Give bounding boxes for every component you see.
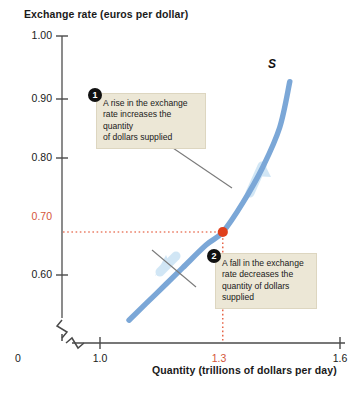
callout-one-line2: rate increases the quantity [103,109,200,132]
y-tick-label-080: 0.80 [10,151,52,163]
callout-two-line1: A fall in the exchange [222,258,311,269]
callout-one: A rise in the exchange rate increases th… [96,93,206,149]
callout-one-line3: of dollars supplied [103,132,200,143]
x-axis-title: Quantity (trillions of dollars per day) [152,364,337,376]
y-tick-label-100: 1.00 [10,29,52,41]
x-tick-label-10: 1.0 [84,352,116,364]
chart-figure: Exchange rate (euros per dollar) Quantit… [0,0,363,393]
callout-one-line1: A rise in the exchange [103,98,200,109]
callout-two-line3: quantity of dollars [222,281,311,292]
callout-two: A fall in the exchange rate decreases th… [215,253,317,309]
x-tick-label-16: 1.6 [324,352,356,364]
decrease-arrow-icon [155,255,176,276]
x-tick-label-13: 1.3 [203,352,235,364]
x-tick-label-origin: 0 [8,352,28,364]
callout-two-line2: rate decreases the [222,269,311,280]
equilibrium-point [218,227,228,237]
callout-one-badge: 1 [88,88,102,102]
y-tick-label-070: 0.70 [10,210,52,222]
supply-curve-label: S [268,57,276,71]
callout-one-leader-line [170,146,232,188]
chart-canvas [0,0,363,393]
y-tick-label-090: 0.90 [10,92,52,104]
y-tick-label-060: 0.60 [10,268,52,280]
y-axis-title: Exchange rate (euros per dollar) [24,8,188,20]
callout-two-badge: 2 [207,249,221,263]
callout-two-line4: supplied [222,292,311,303]
